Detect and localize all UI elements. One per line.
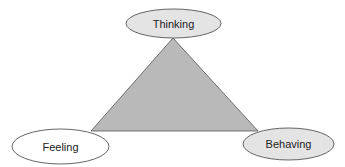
node-feeling: Feeling [12, 129, 109, 164]
center-triangle [91, 38, 258, 131]
feeling-label: Feeling [42, 141, 78, 153]
node-behaving: Behaving [243, 128, 334, 160]
thinking-label: Thinking [153, 18, 195, 30]
behaving-label: Behaving [266, 138, 312, 150]
node-thinking: Thinking [126, 9, 221, 38]
cognitive-triangle-diagram: Thinking Feeling Behaving [0, 0, 345, 167]
